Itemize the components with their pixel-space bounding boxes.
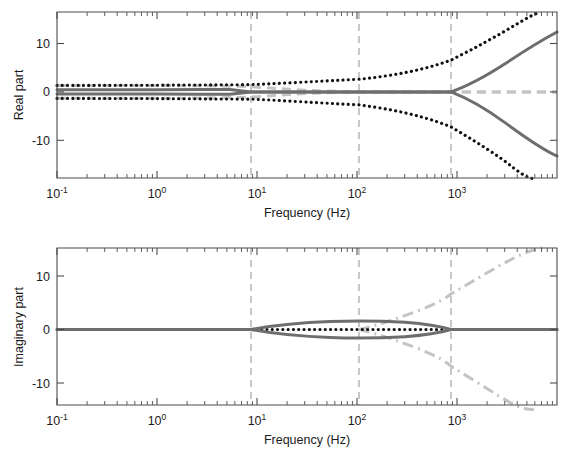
figure-root: 10 0 -10 10-1 xyxy=(0,0,570,469)
imaginary-part-panel: 10 0 -10 10-1 100 xyxy=(12,248,557,447)
imag-xtick-label-1e3-base: 103 xyxy=(448,412,467,428)
real-xtick-label-1e3-base: 103 xyxy=(448,185,467,201)
imag-xtick-label-1e0-base: 100 xyxy=(148,412,167,428)
real-ytick-label-minus10: -10 xyxy=(32,134,50,148)
imag-xtick-label-1e1-base: 101 xyxy=(248,412,267,428)
real-xaxis-label: Frequency (Hz) xyxy=(264,206,350,220)
real-xtick-labels: 10-1 100 101 102 103 xyxy=(46,185,466,201)
imag-xtick-label-1e-1-base: 10-1 xyxy=(46,412,68,428)
imag-ytick-label-10: 10 xyxy=(36,270,50,284)
real-xtick-label-1e2-base: 102 xyxy=(348,185,367,201)
imag-yaxis-label: Imaginary part xyxy=(12,287,26,367)
real-xtick-label-1e1-base: 101 xyxy=(248,185,267,201)
real-xtick-label-1e-1-base: 10-1 xyxy=(46,185,68,201)
real-ytick-label-10: 10 xyxy=(36,37,50,51)
imag-xtick-label-1e2-base: 102 xyxy=(348,412,367,428)
imag-xtick-labels: 10-1 100 101 102 103 xyxy=(46,412,466,428)
imag-plot-background xyxy=(57,248,557,405)
real-part-panel: 10 0 -10 10-1 xyxy=(12,12,557,220)
imag-ytick-label-0: 0 xyxy=(43,323,50,337)
real-xtick-label-1e0-base: 100 xyxy=(148,185,167,201)
figure-svg: 10 0 -10 10-1 xyxy=(0,0,570,469)
imag-ytick-label-minus10: -10 xyxy=(32,377,50,391)
real-yaxis-label: Real part xyxy=(12,69,26,120)
real-ytick-label-0: 0 xyxy=(43,85,50,99)
imag-xaxis-label: Frequency (Hz) xyxy=(264,433,350,447)
